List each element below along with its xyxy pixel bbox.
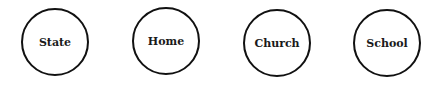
node-state: State — [21, 8, 89, 76]
node-label: Home — [148, 35, 184, 48]
node-label: State — [39, 36, 71, 49]
node-school: School — [353, 9, 421, 77]
node-church: Church — [243, 9, 311, 77]
node-home: Home — [132, 7, 200, 75]
node-label: Church — [254, 37, 299, 50]
node-label: School — [366, 37, 408, 50]
